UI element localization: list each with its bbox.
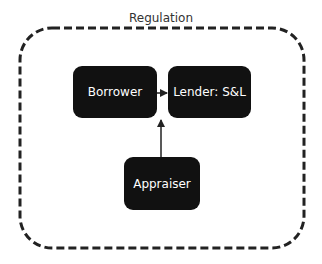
lender-label: Lender: S&L bbox=[173, 85, 246, 99]
regulation-label: Regulation bbox=[0, 11, 322, 25]
borrower-label: Borrower bbox=[88, 85, 142, 99]
regulation-boundary bbox=[20, 28, 304, 248]
appraiser-label: Appraiser bbox=[133, 177, 191, 191]
borrower-node: Borrower bbox=[73, 66, 157, 118]
diagram-lines bbox=[0, 0, 322, 264]
appraiser-node: Appraiser bbox=[124, 157, 200, 210]
lender-node: Lender: S&L bbox=[168, 66, 251, 118]
regulation-label-text: Regulation bbox=[126, 11, 196, 25]
diagram-canvas: Regulation Borrower Lender: S&L Appraise… bbox=[0, 0, 322, 264]
